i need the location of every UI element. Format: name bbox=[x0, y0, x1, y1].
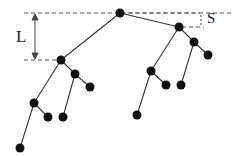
tree-node bbox=[175, 23, 184, 32]
tree-nodes bbox=[16, 9, 213, 153]
tree-edge bbox=[20, 103, 34, 148]
tree-edge bbox=[120, 13, 179, 27]
tree-node bbox=[162, 81, 171, 90]
tree-node bbox=[147, 67, 156, 76]
tree-node bbox=[57, 56, 66, 65]
tree-edge bbox=[151, 27, 179, 71]
tree-edges bbox=[20, 13, 208, 148]
tree-edge bbox=[137, 71, 151, 115]
tree-node bbox=[86, 83, 95, 92]
tree-node bbox=[204, 51, 213, 60]
l-dimension-arrow bbox=[32, 14, 38, 59]
l-label: L bbox=[16, 28, 26, 45]
tree-edge bbox=[63, 74, 75, 117]
tree-node bbox=[59, 113, 68, 122]
tree-diagram bbox=[0, 0, 232, 156]
s-label: S bbox=[207, 11, 215, 26]
tree-node bbox=[71, 70, 80, 79]
tree-node bbox=[190, 38, 199, 47]
tree-node bbox=[116, 9, 125, 18]
tree-node bbox=[133, 111, 142, 120]
tree-node bbox=[44, 113, 53, 122]
tree-edge bbox=[181, 42, 194, 85]
tree-node bbox=[30, 99, 39, 108]
tree-node bbox=[177, 81, 186, 90]
tree-node bbox=[16, 144, 25, 153]
tree-edge bbox=[61, 13, 120, 60]
tree-edge bbox=[34, 60, 61, 103]
